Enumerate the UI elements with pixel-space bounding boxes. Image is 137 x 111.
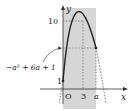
point-a: [95, 47, 98, 50]
label-xa: a: [94, 92, 99, 101]
label-x3: 3: [81, 92, 86, 101]
y-axis-arrow: [61, 5, 65, 10]
x-axis-arrow: [123, 87, 128, 91]
label-value-at-a: −a² + 6a + 1: [6, 63, 56, 72]
label-y1: 1: [57, 77, 62, 86]
label-y10: 10: [48, 17, 58, 26]
origin-label: O: [65, 92, 72, 101]
y-axis-label: y: [65, 4, 72, 14]
x-axis-label: x: [121, 92, 126, 102]
leader-arrowhead: [58, 47, 62, 51]
leader-arrow: [43, 48, 60, 62]
parabola-diagram: y x O 10 1 3 a −a² + 6a + 1: [0, 0, 137, 111]
